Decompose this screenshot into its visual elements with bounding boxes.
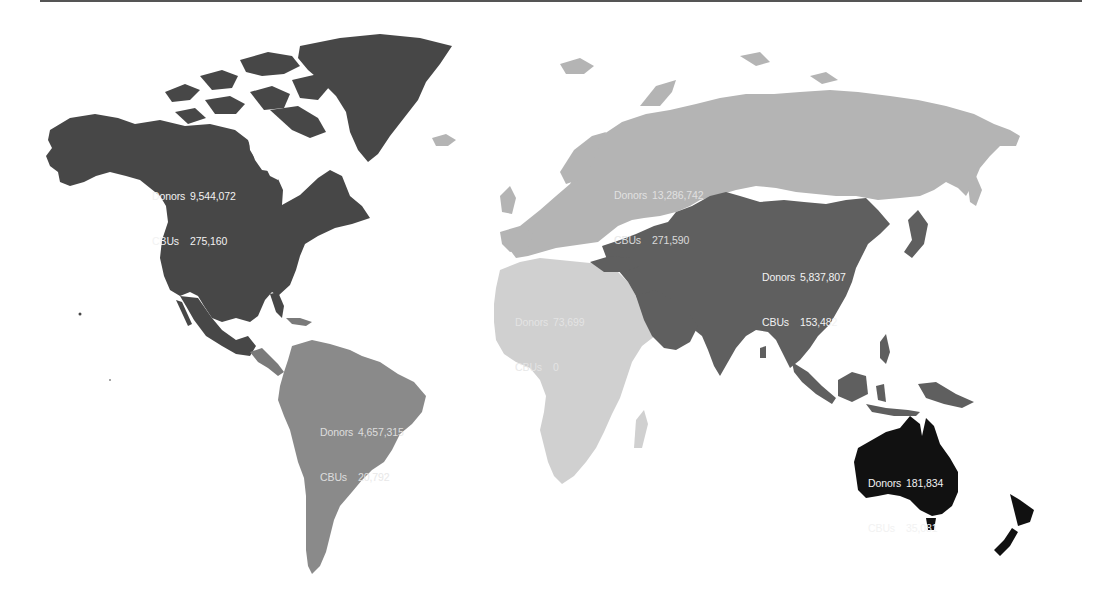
region-north-america [46, 34, 452, 356]
donors-value: 13,286,742 [652, 189, 704, 201]
label-europe: Donors13,286,742 CBUs271,590 [614, 158, 704, 263]
donors-value: 181,834 [906, 477, 943, 489]
donors-value: 73,699 [553, 316, 585, 328]
label-africa: Donors73,699 CBUs0 [515, 285, 585, 390]
donors-label: Donors [868, 476, 906, 491]
cbus-label: CBUs [152, 234, 190, 249]
donors-label: Donors [152, 189, 190, 204]
label-north-america: Donors9,544,072 CBUs275,160 [152, 159, 236, 264]
cbus-label: CBUs [320, 470, 358, 485]
label-asia: Donors5,837,807 CBUs153,482 [762, 240, 846, 345]
cbus-value: 35,081 [906, 522, 938, 534]
cbus-value: 275,160 [190, 235, 227, 247]
cbus-value: 153,482 [800, 316, 837, 328]
cbus-label: CBUs [614, 233, 652, 248]
donors-label: Donors [515, 315, 553, 330]
label-oceania: Donors181,834 CBUs35,081 [868, 446, 943, 551]
cbus-value: 20,792 [358, 471, 390, 483]
cbus-value: 0 [553, 361, 559, 373]
donors-label: Donors [320, 425, 358, 440]
donors-label: Donors [762, 270, 800, 285]
cbus-value: 271,590 [652, 234, 689, 246]
label-south-america: Donors4,657,315 CBUs20,792 [320, 395, 404, 500]
donors-value: 4,657,315 [358, 426, 404, 438]
cbus-label: CBUs [868, 521, 906, 536]
donors-value: 5,837,807 [800, 271, 846, 283]
cbus-label: CBUs [762, 315, 800, 330]
donors-value: 9,544,072 [190, 190, 236, 202]
cbus-label: CBUs [515, 360, 553, 375]
donors-label: Donors [614, 188, 652, 203]
